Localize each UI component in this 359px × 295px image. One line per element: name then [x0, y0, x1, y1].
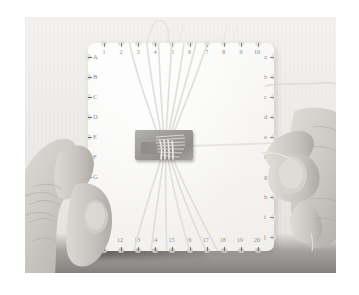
slot-bottom — [207, 247, 208, 251]
slot-top — [104, 43, 105, 47]
label-top-8: 8 — [222, 49, 225, 55]
slot-top — [138, 43, 139, 47]
label-top-7: 7 — [205, 49, 208, 55]
label-bottom-19: 19 — [237, 237, 243, 243]
slot-top — [155, 43, 156, 47]
right-hand — [261, 101, 336, 251]
label-top-2: 2 — [120, 49, 123, 55]
slot-bottom — [241, 247, 242, 251]
photograph: 1234567891011121314151617181920ABCDEFGHa… — [25, 17, 336, 273]
slot-bottom — [224, 247, 225, 251]
label-top-10: 10 — [254, 49, 260, 55]
label-left-A: A — [93, 54, 98, 61]
label-bottom-20: 20 — [254, 237, 260, 243]
label-top-4: 4 — [154, 49, 157, 55]
slot-top — [224, 43, 225, 47]
label-top-1: 1 — [103, 49, 106, 55]
photo-frame: 1234567891011121314151617181920ABCDEFGHa… — [0, 0, 359, 295]
label-top-5: 5 — [171, 49, 174, 55]
slot-top — [258, 43, 259, 47]
slot-right — [270, 57, 274, 58]
label-bottom-14: 14 — [151, 237, 157, 243]
label-right-b: b — [264, 74, 267, 81]
label-bottom-18: 18 — [220, 237, 226, 243]
slot-bottom — [172, 247, 173, 251]
slot-top — [190, 43, 191, 47]
label-top-6: 6 — [188, 49, 191, 55]
label-bottom-17: 17 — [203, 237, 209, 243]
slot-top — [172, 43, 173, 47]
slot-top — [241, 43, 242, 47]
slot-left — [88, 77, 92, 78]
label-right-a: a — [264, 54, 267, 61]
slot-bottom — [190, 247, 191, 251]
center-weight-clip[interactable] — [135, 130, 193, 160]
slot-top — [121, 43, 122, 47]
label-bottom-16: 16 — [186, 237, 192, 243]
slot-bottom — [155, 247, 156, 251]
left-hand — [25, 113, 137, 273]
label-right-c: c — [264, 94, 267, 101]
label-top-9: 9 — [239, 49, 242, 55]
label-left-B: B — [93, 74, 97, 81]
label-bottom-15: 15 — [168, 237, 174, 243]
slot-bottom — [138, 247, 139, 251]
slot-right — [270, 77, 274, 78]
label-top-3: 3 — [137, 49, 140, 55]
slot-top — [207, 43, 208, 47]
label-left-C: C — [93, 94, 97, 101]
slot-right — [270, 97, 274, 98]
slot-bottom — [258, 247, 259, 251]
slot-left — [88, 97, 92, 98]
slot-left — [88, 57, 92, 58]
